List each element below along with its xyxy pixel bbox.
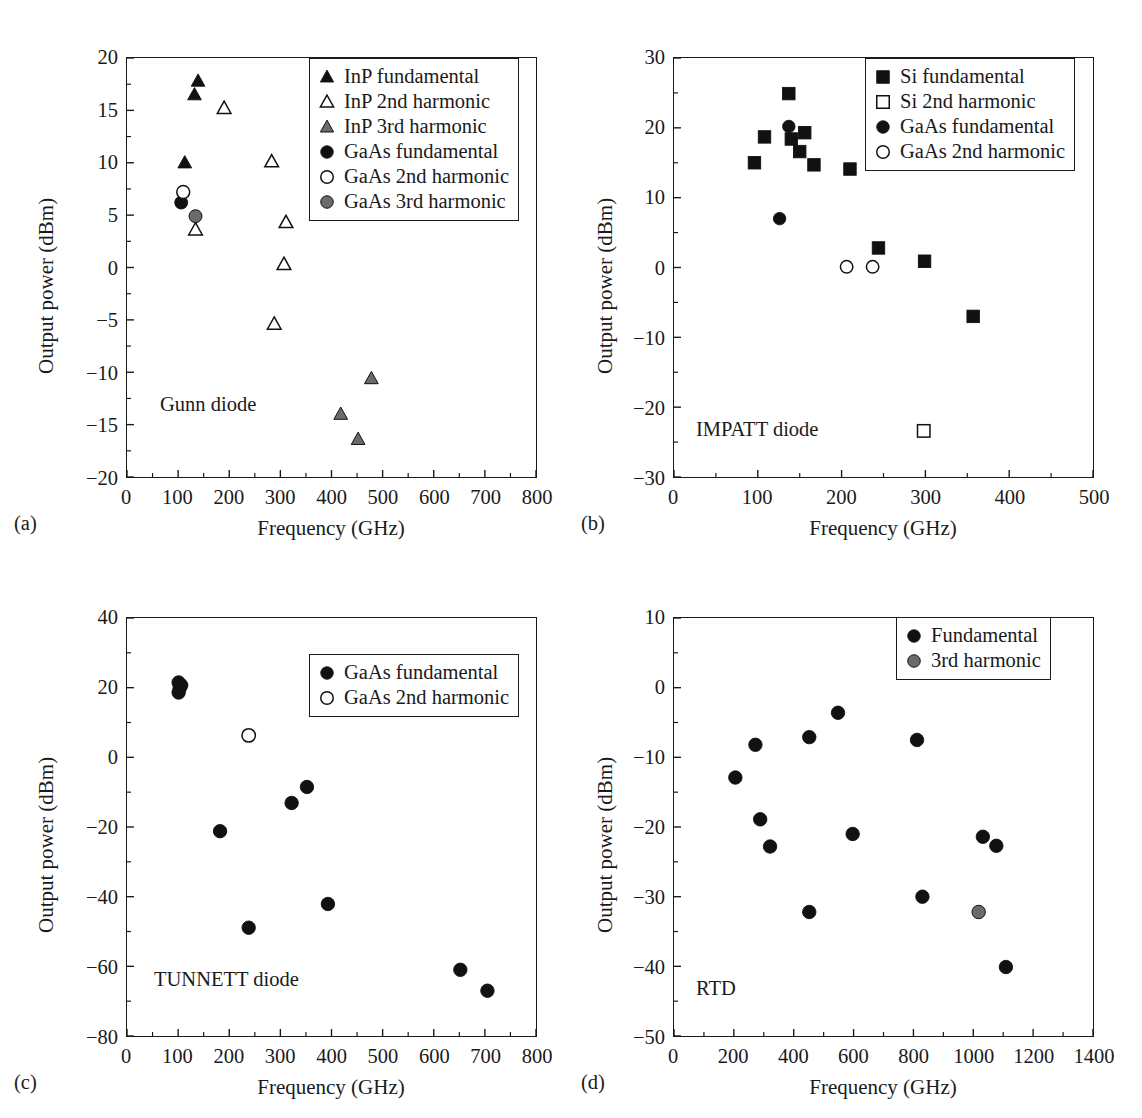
- x-tick-label: 400: [316, 487, 347, 508]
- data-point-gaas-fundamental: [773, 212, 785, 224]
- legend-item-0[interactable]: Si fundamental: [873, 64, 1065, 89]
- annotation-a: Gunn diode: [160, 393, 256, 416]
- legend-item-3[interactable]: GaAs 2nd harmonic: [873, 139, 1065, 164]
- legend-marker-circle-open-icon: [317, 167, 337, 187]
- data-point-gaas-fundamental: [454, 963, 467, 976]
- y-tick-label: 40: [60, 607, 118, 628]
- y-tick-label: −50: [607, 1027, 665, 1048]
- legend-marker-circle-open-icon: [317, 688, 337, 708]
- x-tick-label: 400: [994, 487, 1025, 508]
- data-point-inp-3rd-harmonic: [365, 371, 379, 383]
- x-tick-label: 700: [470, 1046, 501, 1067]
- legend-glyph: [320, 120, 333, 132]
- x-tick-label: 300: [265, 1046, 296, 1067]
- data-point-si-fundamental: [748, 157, 760, 169]
- y-tick-label: 5: [60, 205, 118, 226]
- data-point-gaas-3rd-harmonic: [189, 210, 202, 223]
- data-point-si-fundamental: [793, 145, 805, 157]
- y-tick-label: 30: [607, 47, 665, 68]
- legend-item-1[interactable]: InP 2nd harmonic: [317, 89, 509, 114]
- x-tick-label: 100: [742, 487, 773, 508]
- data-point-inp-3rd-harmonic: [351, 432, 365, 444]
- legend-marker-triangle-open-icon: [317, 92, 337, 112]
- x-tick-label: 100: [162, 487, 193, 508]
- y-tick-label: −30: [607, 468, 665, 489]
- legend-item-0[interactable]: GaAs fundamental: [317, 660, 509, 685]
- y-tick-label: 15: [60, 99, 118, 120]
- axis-title-x-b: Frequency (GHz): [733, 516, 1033, 541]
- data-point-3rd-harmonic: [972, 905, 985, 918]
- legend-marker-circle-open-icon: [873, 142, 893, 162]
- panel-b: 0100200300400500−30−20−100102030 Si fund…: [571, 0, 1142, 559]
- y-tick-label: 0: [607, 677, 665, 698]
- y-tick-label: 20: [607, 117, 665, 138]
- legend-item-0[interactable]: InP fundamental: [317, 64, 509, 89]
- legend-item-5[interactable]: GaAs 3rd harmonic: [317, 189, 509, 214]
- legend-label: InP 3rd harmonic: [344, 116, 487, 137]
- data-point-inp-fundamental: [188, 88, 202, 100]
- data-point-inp-2nd-harmonic: [279, 215, 293, 227]
- data-point-fundamental: [916, 890, 929, 903]
- data-point-fundamental: [749, 738, 762, 751]
- figure-root: 0100200300400500600700800−20−15−10−50510…: [0, 0, 1142, 1118]
- legend-item-1[interactable]: 3rd harmonic: [904, 648, 1041, 673]
- legend-item-4[interactable]: GaAs 2nd harmonic: [317, 164, 509, 189]
- legend-marker-circle-gray-icon: [904, 651, 924, 671]
- legend-label: GaAs fundamental: [344, 141, 498, 162]
- axis-title-y-a: Output power (dBm): [34, 198, 59, 374]
- y-tick-label: 10: [60, 152, 118, 173]
- y-tick-label: −40: [60, 887, 118, 908]
- x-tick-label: 300: [265, 487, 296, 508]
- data-point-si-fundamental: [844, 163, 856, 175]
- data-point-fundamental: [729, 771, 742, 784]
- y-tick-label: 0: [60, 257, 118, 278]
- legend-glyph: [908, 629, 921, 642]
- data-point-inp-2nd-harmonic: [277, 257, 291, 269]
- data-point-si-fundamental: [758, 131, 770, 143]
- data-layer-d: [674, 618, 1093, 1036]
- legend-marker-circle-filled-icon: [904, 626, 924, 646]
- x-tick-label: 0: [121, 1046, 131, 1067]
- panel-d: 0200400600800100012001400−50−40−30−20−10…: [571, 559, 1142, 1118]
- data-point-fundamental: [763, 840, 776, 853]
- legend-item-1[interactable]: Si 2nd harmonic: [873, 89, 1065, 114]
- data-point-fundamental: [990, 839, 1003, 852]
- legend-glyph: [321, 666, 334, 679]
- legend-item-2[interactable]: InP 3rd harmonic: [317, 114, 509, 139]
- legend-d: Fundamental3rd harmonic: [896, 617, 1051, 680]
- x-tick-label: 400: [316, 1046, 347, 1067]
- panel-caption-d: (d): [581, 1071, 605, 1094]
- legend-item-0[interactable]: Fundamental: [904, 623, 1041, 648]
- data-point-gaas-2nd-harmonic: [866, 261, 878, 273]
- legend-marker-square-open-icon: [873, 92, 893, 112]
- x-tick-label: 700: [470, 487, 501, 508]
- data-point-gaas-fundamental: [300, 780, 313, 793]
- legend-item-1[interactable]: GaAs 2nd harmonic: [317, 685, 509, 710]
- data-point-fundamental: [803, 730, 816, 743]
- x-tick-label: 600: [419, 487, 450, 508]
- x-tick-label: 600: [419, 1046, 450, 1067]
- x-tick-label: 800: [898, 1046, 929, 1067]
- legend-label: InP fundamental: [344, 66, 479, 87]
- legend-glyph: [321, 691, 334, 704]
- legend-marker-circle-gray-icon: [317, 192, 337, 212]
- x-tick-label: 0: [668, 487, 678, 508]
- axis-title-y-d: Output power (dBm): [593, 757, 618, 933]
- y-tick-label: 0: [60, 747, 118, 768]
- plot-area-d: [673, 617, 1094, 1037]
- y-tick-label: −20: [60, 817, 118, 838]
- data-point-gaas-fundamental: [321, 897, 334, 910]
- data-point-gaas-fundamental: [242, 921, 255, 934]
- x-tick-label: 100: [162, 1046, 193, 1067]
- annotation-d: RTD: [696, 977, 736, 1000]
- axis-title-x-c: Frequency (GHz): [181, 1075, 481, 1100]
- data-point-inp-fundamental: [191, 74, 205, 86]
- x-tick-label: 1000: [953, 1046, 994, 1067]
- legend-item-2[interactable]: GaAs fundamental: [873, 114, 1065, 139]
- data-point-inp-3rd-harmonic: [334, 407, 348, 419]
- legend-label: GaAs fundamental: [900, 116, 1054, 137]
- data-point-fundamental: [831, 706, 844, 719]
- legend-label: InP 2nd harmonic: [344, 91, 490, 112]
- legend-item-3[interactable]: GaAs fundamental: [317, 139, 509, 164]
- y-tick-label: −60: [60, 957, 118, 978]
